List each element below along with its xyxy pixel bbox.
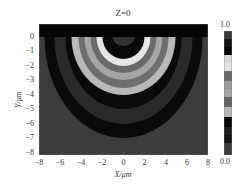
x-tick: 6 — [179, 158, 195, 167]
y-tick: −2 — [18, 61, 34, 70]
x-tick: 8 — [200, 158, 216, 167]
x-tick: 0 — [116, 158, 132, 167]
x-tick: −2 — [94, 158, 110, 167]
colorbar-max-label: 1.0 — [220, 20, 230, 29]
y-tick: −7 — [18, 133, 34, 142]
x-tick: 2 — [137, 158, 153, 167]
x-tick: 4 — [158, 158, 174, 167]
x-axis-label: X/μm — [0, 170, 246, 179]
y-axis-label: Y/μm — [14, 92, 23, 108]
y-tick: −1 — [18, 46, 34, 55]
y-tick: −6 — [18, 119, 34, 128]
x-tick: −8 — [31, 158, 47, 167]
chart-title: Z=0 — [0, 8, 246, 18]
x-tick: −6 — [52, 158, 68, 167]
y-tick: −3 — [18, 75, 34, 84]
x-tick: −4 — [73, 158, 89, 167]
colorbar-min-label: 0.0 — [220, 157, 230, 166]
heatmap-plot-area — [39, 24, 208, 155]
y-tick: 0 — [18, 32, 34, 41]
y-tick: −8 — [18, 148, 34, 157]
colorbar — [224, 31, 232, 155]
